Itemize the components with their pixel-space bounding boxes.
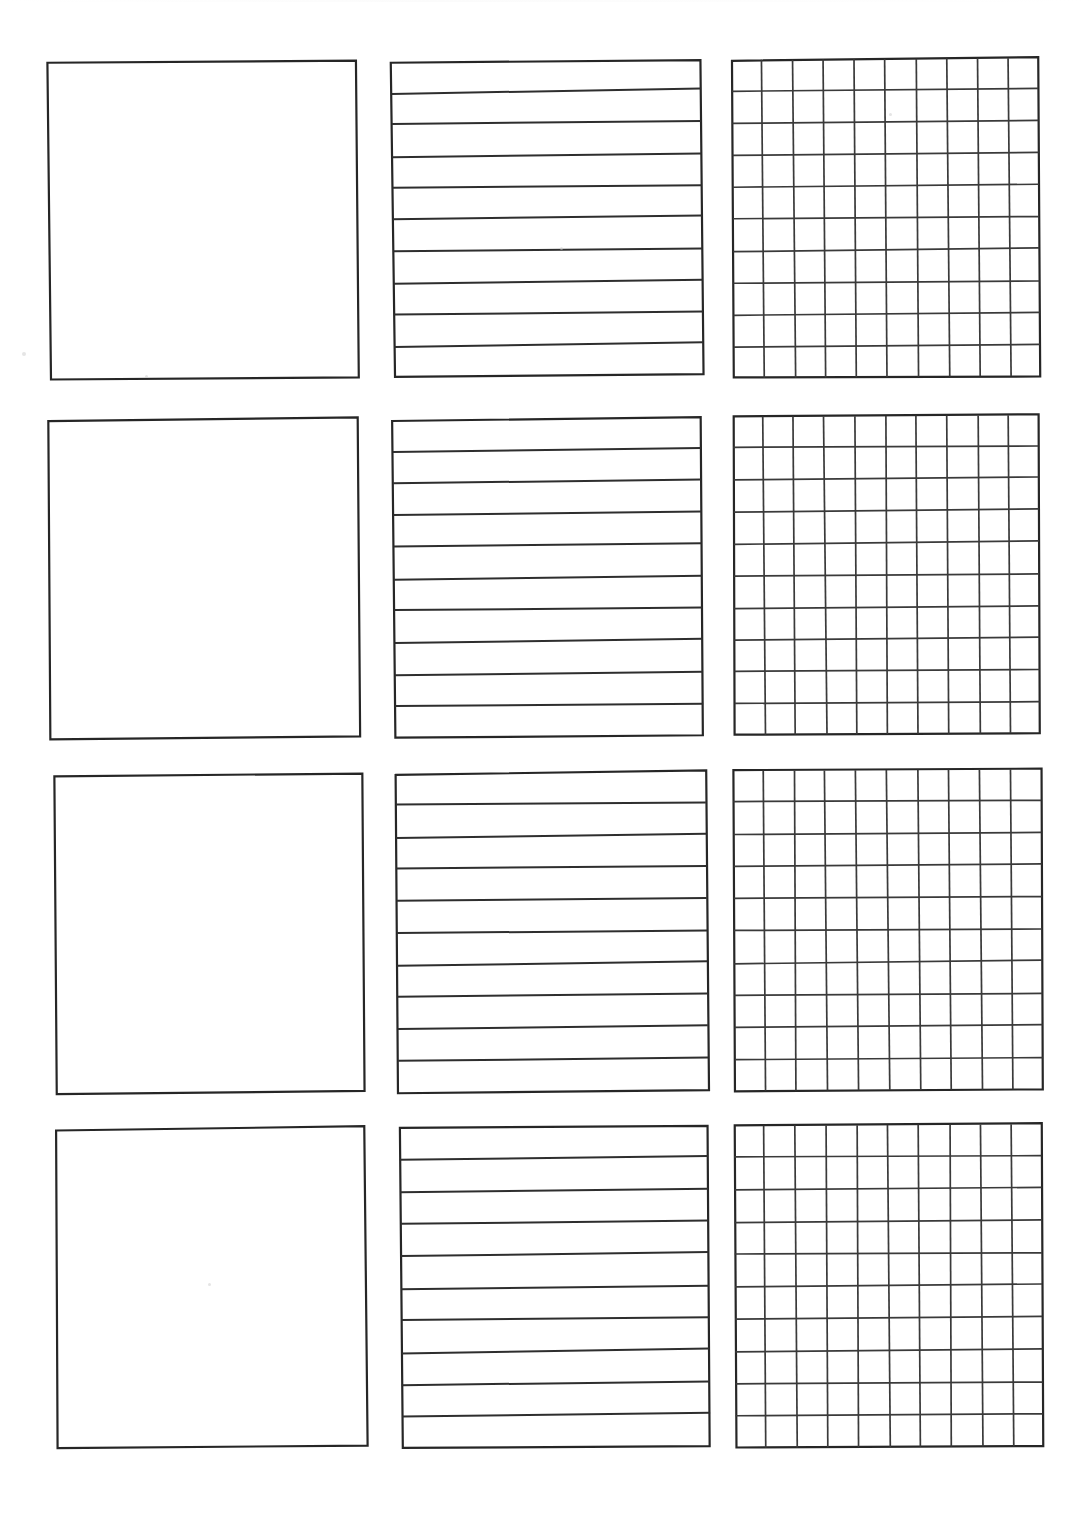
lined-box-2-rule-4 [394,543,702,546]
lined-box-4-rule-2 [400,1189,708,1192]
grid-box-4-vline-4 [857,1125,859,1447]
lined-box-1-rule-7 [394,280,703,284]
blank-box-4-border [55,1126,368,1448]
grid-box-4-vline-1 [764,1126,766,1448]
lined-box-2-rule-7 [395,639,703,643]
grid-box-2-vline-2 [793,417,795,735]
grid-box-4-vline-8 [980,1125,983,1447]
lined-box-2-rule-1 [393,448,701,452]
lined-box-1[interactable] [390,59,704,379]
grid-box-4[interactable] [733,1123,1044,1449]
blank-box-2-border [48,417,360,739]
blank-box-1-drawing [47,60,361,381]
grid-box-2-drawing [732,414,1041,736]
grid-box-2-vline-6 [916,416,918,734]
lined-box-2-rule-6 [394,607,702,610]
blank-box-4[interactable] [55,1127,369,1449]
speck-grid-1-mid [889,113,892,116]
lined-box-4-rule-7 [402,1348,710,1353]
blank-box-1[interactable] [47,60,361,381]
speck-left-margin [22,352,26,356]
lined-box-3-rule-4 [397,898,707,901]
lined-box-1-rule-3 [392,153,701,157]
blank-box-2[interactable] [47,418,362,740]
grid-box-1-vline-4 [854,59,856,377]
lined-box-2-rule-8 [395,672,703,675]
grid-box-2-vline-7 [947,416,949,734]
lined-box-3-rule-1 [396,802,706,805]
lined-box-1-drawing [390,59,704,379]
lined-box-4[interactable] [399,1125,712,1450]
lined-box-2-rule-2 [393,479,701,483]
lined-box-4-drawing [399,1125,712,1450]
lined-box-2-drawing [392,417,705,739]
grid-box-4-vline-7 [950,1125,952,1447]
grid-box-2-vline-8 [978,415,980,733]
lined-box-3-rule-2 [396,834,706,838]
grid-box-1-drawing [731,57,1041,379]
blank-box-4-drawing [55,1127,369,1449]
worksheet-grid [0,0,1090,1532]
lined-box-1-rule-1 [392,89,701,94]
lined-box-3[interactable] [395,771,710,1094]
lined-box-3-rule-3 [396,866,706,869]
lined-box-3-drawing [395,771,710,1094]
speck-blank-4-mid [208,1283,211,1286]
lined-box-4-rule-4 [401,1252,709,1256]
lined-box-4-rule-5 [401,1286,709,1289]
grid-box-4-vline-3 [826,1125,828,1447]
grid-box-4-vline-6 [918,1125,920,1447]
blank-box-2-drawing [47,418,362,740]
grid-box-2-vline-5 [885,416,887,734]
grid-box-3[interactable] [732,768,1044,1092]
grid-box-3-vline-1 [763,771,765,1091]
lined-box-2[interactable] [392,417,705,739]
lined-box-3-rule-6 [397,961,707,966]
lined-box-4-rule-6 [401,1317,709,1320]
lined-box-4-rule-1 [400,1156,708,1160]
lined-box-2-rule-9 [395,703,703,706]
lined-box-4-rule-8 [402,1381,710,1385]
lined-box-1-rule-2 [392,121,701,124]
grid-box-2[interactable] [732,414,1041,736]
grid-box-3-drawing [732,768,1044,1092]
speck-blank-1-bottom [145,375,148,378]
lined-box-3-rule-8 [398,1025,708,1029]
lined-box-2-rule-3 [393,512,701,515]
grid-box-2-vline-9 [1008,415,1010,733]
lined-box-4-rule-9 [402,1413,710,1417]
grid-box-1[interactable] [731,57,1041,379]
lined-box-3-rule-5 [397,930,707,933]
lined-box-1-rule-5 [393,215,702,219]
blank-box-3-border [54,774,365,1095]
lined-box-1-rule-4 [393,185,702,188]
grid-box-4-vline-9 [1011,1124,1014,1446]
grid-box-4-drawing [733,1123,1044,1449]
grid-box-1-vline-5 [885,59,887,377]
blank-box-3-drawing [53,773,366,1094]
grid-box-2-vline-4 [855,416,857,734]
lined-box-1-rule-9 [394,342,703,347]
lined-box-2-rule-5 [394,576,702,580]
speck-lined-1-mid [560,247,563,250]
lined-box-3-rule-7 [398,994,708,997]
lined-box-1-rule-6 [393,248,702,251]
lined-box-3-rule-9 [398,1058,708,1061]
lined-box-1-rule-8 [394,311,703,314]
blank-box-3[interactable] [53,773,366,1094]
lined-box-4-rule-3 [400,1220,708,1223]
blank-box-1-border [47,60,358,380]
worksheet-page [0,0,1090,1532]
grid-box-1-vline-6 [916,59,918,377]
